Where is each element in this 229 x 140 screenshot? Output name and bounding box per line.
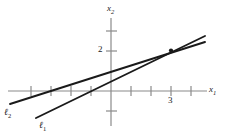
x-tick-label-3: 3 — [168, 96, 173, 105]
line-l1 — [36, 36, 205, 118]
plot-canvas — [0, 0, 229, 140]
line-label-l1: ℓ1 — [39, 121, 46, 132]
line-label-l2: ℓ2 — [4, 108, 11, 119]
y-tick-label-2: 2 — [98, 45, 103, 54]
y-axis-label: x2 — [107, 4, 114, 15]
line-graph-figure: x1 x2 2 3 ℓ1 ℓ2 — [0, 0, 229, 140]
x-axis-label: x1 — [209, 85, 216, 96]
intersection-point-marker — [169, 48, 173, 52]
